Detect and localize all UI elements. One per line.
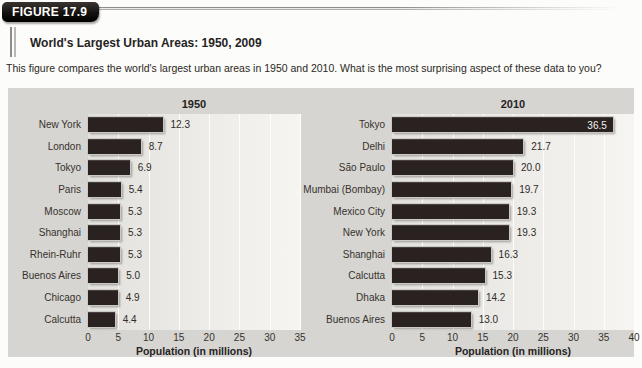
chart-title-1950: 1950 (88, 98, 300, 114)
bar-row: 6.9 (88, 157, 300, 179)
x-tick-20: 20 (204, 332, 215, 343)
bar-value-label: 4.4 (123, 314, 137, 325)
category-label: Mumbai (Bombay) (312, 179, 392, 201)
figure-badge: FIGURE 17.9 (2, 2, 99, 22)
chart-main-2010: TokyoDelhiSão PauloMumbai (Bombay)Mexico… (312, 114, 634, 330)
category-label: Shanghai (312, 244, 392, 266)
bar-row: 15.3 (392, 265, 634, 287)
bar-value-label: 14.2 (486, 292, 505, 303)
bar-paris (88, 182, 121, 197)
bar-value-label: 19.7 (519, 184, 538, 195)
category-label: Paris (8, 179, 88, 201)
x-tick-40: 40 (628, 332, 639, 343)
bar-row: 5.3 (88, 222, 300, 244)
bar-s-o-paulo (392, 160, 513, 175)
bar-value-label: 20.0 (521, 162, 540, 173)
figure-badge-label: FIGURE 17.9 (12, 5, 87, 19)
bar-row: 5.4 (88, 179, 300, 201)
figure-17-9: FIGURE 17.9 World's Largest Urban Areas:… (0, 0, 642, 368)
bar-buenos-aires (392, 312, 471, 327)
category-label: Shanghai (8, 222, 88, 244)
category-label: Tokyo (8, 157, 88, 179)
bar-row: 14.2 (392, 287, 634, 309)
bar-row: 36.5 (392, 114, 634, 136)
bar-buenos-aires (88, 268, 118, 283)
bar-tokyo: 36.5 (392, 117, 613, 132)
bar-chart-2010: 2010TokyoDelhiSão PauloMumbai (Bombay)Me… (312, 98, 634, 357)
category-label: New York (8, 114, 88, 136)
bar-value-label: 21.7 (531, 141, 550, 152)
bar-row: 19.7 (392, 179, 634, 201)
bar-value-label: 5.3 (128, 227, 142, 238)
bar-tokyo (88, 160, 130, 175)
bar-mumbai-bombay- (392, 182, 511, 197)
bar-row: 19.3 (392, 200, 634, 222)
category-label: Rhein-Ruhr (8, 244, 88, 266)
bar-value-label: 5.4 (129, 184, 143, 195)
bar-calcutta (392, 268, 485, 283)
gridline-40 (634, 114, 635, 330)
bar-row: 4.4 (88, 308, 300, 330)
category-labels: New YorkLondonTokyoParisMoscowShanghaiRh… (8, 114, 88, 330)
bar-value-label: 6.9 (138, 162, 152, 173)
x-tick-5: 5 (419, 332, 425, 343)
category-label: Moscow (8, 200, 88, 222)
category-label: New York (312, 222, 392, 244)
bar-row: 5.3 (88, 200, 300, 222)
x-tick-10: 10 (447, 332, 458, 343)
x-tick-0: 0 (389, 332, 395, 343)
bar-row: 8.7 (88, 136, 300, 158)
bar-value-label: 13.0 (479, 314, 498, 325)
x-tick-30: 30 (264, 332, 275, 343)
bar-moscow (88, 204, 120, 219)
header-rule (98, 7, 642, 10)
bar-calcutta (88, 312, 115, 327)
plot-area-1950: 12.38.76.95.45.35.35.35.04.94.4 (88, 114, 300, 330)
bar-row: 19.3 (392, 222, 634, 244)
x-tick-35: 35 (294, 332, 305, 343)
x-tick-0: 0 (85, 332, 91, 343)
bar-new-york (392, 225, 509, 240)
x-axis-label-1950: Population (in millions) (88, 343, 300, 357)
bar-value-label: 8.7 (149, 141, 163, 152)
bar-value-label: 15.3 (493, 270, 512, 281)
bar-london (88, 139, 141, 154)
bar-value-label: 5.3 (128, 206, 142, 217)
category-label: Delhi (312, 136, 392, 158)
category-label: London (8, 136, 88, 158)
bar-dhaka (392, 290, 478, 305)
x-axis-label-2010: Population (in millions) (392, 343, 634, 357)
bar-mexico-city (392, 204, 509, 219)
bar-value-label: 36.5 (587, 119, 606, 130)
category-label: Tokyo (312, 114, 392, 136)
category-labels: TokyoDelhiSão PauloMumbai (Bombay)Mexico… (312, 114, 392, 330)
bar-row: 16.3 (392, 244, 634, 266)
x-tick-5: 5 (116, 332, 122, 343)
gridline-35 (300, 114, 301, 330)
chart-main-1950: New YorkLondonTokyoParisMoscowShanghaiRh… (8, 114, 300, 330)
x-tick-10: 10 (143, 332, 154, 343)
bar-value-label: 16.3 (499, 249, 518, 260)
figure-subtitle-row: World's Largest Urban Areas: 1950, 2009 (8, 27, 634, 57)
x-tick-15: 15 (477, 332, 488, 343)
bar-value-label: 19.3 (517, 227, 536, 238)
charts-panel: 1950New YorkLondonTokyoParisMoscowShangh… (8, 88, 634, 357)
x-tick-20: 20 (507, 332, 518, 343)
x-tick-15: 15 (173, 332, 184, 343)
bar-row: 5.0 (88, 265, 300, 287)
category-label: Chicago (8, 287, 88, 309)
bar-rhein-ruhr (88, 247, 120, 262)
bar-chart-1950: 1950New YorkLondonTokyoParisMoscowShangh… (8, 98, 300, 357)
category-label: Mexico City (312, 200, 392, 222)
figure-description: This figure compares the world's largest… (6, 62, 638, 74)
category-label: Buenos Aires (8, 265, 88, 287)
bar-value-label: 5.0 (126, 270, 140, 281)
bar-new-york (88, 117, 163, 132)
category-label: Buenos Aires (312, 308, 392, 330)
bar-value-label: 4.9 (126, 292, 140, 303)
bar-row: 21.7 (392, 136, 634, 158)
bar-value-label: 5.3 (128, 249, 142, 260)
x-axis-2010: 0510152025303540 (392, 330, 634, 343)
category-label: São Paulo (312, 157, 392, 179)
bar-shanghai (88, 225, 120, 240)
